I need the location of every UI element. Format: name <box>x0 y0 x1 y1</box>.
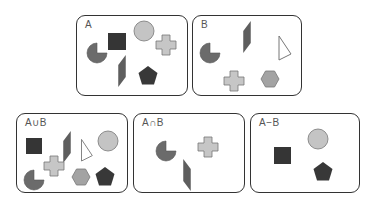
circle-icon <box>98 131 118 151</box>
parallelogram-icon <box>243 21 251 53</box>
shapes-layer <box>0 0 373 206</box>
pacman-icon <box>156 141 176 161</box>
triangle-icon <box>279 36 291 60</box>
square-icon <box>26 138 42 154</box>
parallelogram-icon <box>183 159 191 191</box>
pacman-icon <box>200 43 220 63</box>
set-b-shapes <box>200 21 291 91</box>
union-shapes <box>24 131 118 190</box>
intersection-shapes <box>156 137 218 191</box>
pentagon-icon <box>96 167 115 186</box>
circle-icon <box>308 129 328 149</box>
parallelogram-icon <box>63 131 71 163</box>
parallelogram-icon <box>118 55 126 87</box>
cross-icon <box>224 71 244 91</box>
pacman-icon <box>87 43 107 63</box>
difference-shapes <box>274 129 333 181</box>
hexagon-icon <box>261 71 279 87</box>
set-a-shapes <box>87 21 176 87</box>
square-icon <box>108 33 126 50</box>
cross-icon <box>44 156 64 176</box>
hexagon-icon <box>72 169 90 185</box>
square-icon <box>274 147 291 164</box>
pacman-icon <box>24 170 44 190</box>
cross-icon <box>198 137 218 157</box>
cross-icon <box>156 35 176 55</box>
triangle-icon <box>82 139 93 161</box>
pentagon-icon <box>139 66 158 85</box>
pentagon-icon <box>314 162 333 181</box>
circle-icon <box>134 21 154 41</box>
